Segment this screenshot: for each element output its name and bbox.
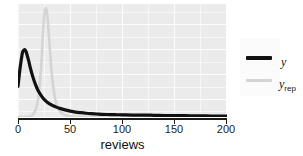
series-line-y_rep [18,8,227,117]
legend-label-yrep: yrep [279,77,296,96]
legend-swatch-yrep [246,79,272,82]
x-axis-tick-label: 0 [15,123,21,136]
x-axis-tick-label: 150 [165,123,183,136]
chart-legend [240,38,280,96]
series-curves [18,4,227,117]
x-axis-tick-label: 100 [113,123,131,136]
plot-panel [18,4,227,117]
legend-item-yrep[interactable] [240,60,280,86]
legend-label-y: y [281,55,286,69]
chart-container: 0 50 100 150 200 reviews y yrep [0,0,303,156]
x-axis-tick-label: 50 [64,123,76,136]
legend-label-yrep-subscript: rep [284,84,296,93]
x-axis-tick-label: 200 [217,123,235,136]
legend-label-y-text: y [281,55,286,69]
legend-key-yrep [245,68,273,94]
x-axis-title: reviews [0,137,245,152]
